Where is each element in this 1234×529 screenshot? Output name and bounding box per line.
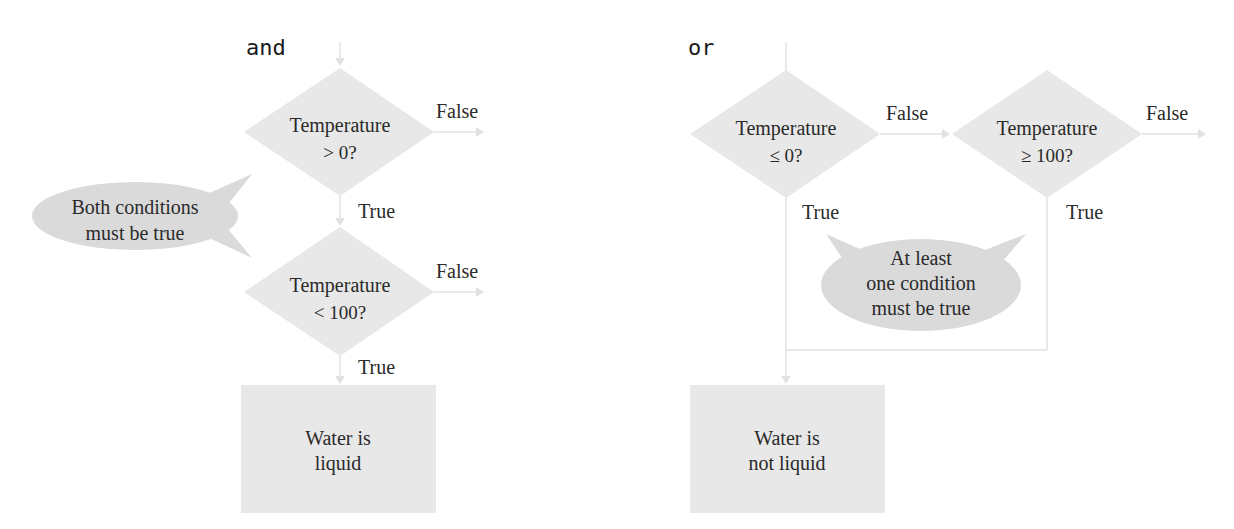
callout-both-conditions: Both conditions must be true [32,174,252,258]
arrowhead-icon [476,127,484,137]
false-label: False [886,102,928,124]
result-text: Water is [305,427,371,449]
decision-text: Temperature [290,274,391,297]
decision-text: ≥ 100? [1021,145,1073,166]
callout-text: one condition [866,272,975,294]
decision-text: < 100? [314,302,366,323]
result-text: not liquid [748,452,825,475]
or-diagram: or Temperature ≤ 0? False Temperature ≥ … [688,35,1206,513]
flowchart-canvas: and Temperature > 0? False True Temperat… [0,0,1234,529]
false-label: False [1146,102,1188,124]
decision-text: Temperature [736,117,837,140]
result-water-is-not-liquid [690,385,885,513]
arrowhead-icon [335,58,345,66]
or-title: or [688,35,715,60]
callout-text: must be true [872,297,971,319]
true-label: True [358,356,395,378]
decision-text: Temperature [290,114,391,137]
callout-at-least-one: At least one condition must be true [821,234,1026,331]
arrowhead-icon [335,376,345,384]
and-title: and [246,35,286,60]
arrowhead-icon [942,129,950,139]
true-label: True [358,200,395,222]
result-water-is-liquid [241,385,436,513]
decision-text: > 0? [323,142,356,163]
arrowhead-icon [476,287,484,297]
decision-text: Temperature [997,117,1098,140]
callout-text: must be true [86,222,185,244]
and-diagram: and Temperature > 0? False True Temperat… [32,35,484,513]
true-label: True [1066,201,1103,223]
false-label: False [436,100,478,122]
arrowhead-icon [335,218,345,226]
callout-text: At least [890,247,952,269]
callout-text: Both conditions [71,196,198,218]
arrowhead-icon [1198,129,1206,139]
result-text: Water is [754,427,820,449]
false-label: False [436,260,478,282]
decision-text: ≤ 0? [769,145,802,166]
result-text: liquid [315,452,362,475]
arrowhead-icon [781,376,791,384]
true-label: True [802,201,839,223]
